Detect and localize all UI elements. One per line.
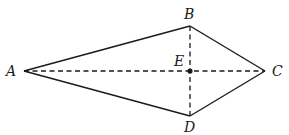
segment-bc bbox=[190, 26, 265, 71]
label-e: E bbox=[173, 53, 184, 69]
point-e-dot bbox=[187, 68, 192, 73]
diagonals bbox=[24, 26, 265, 116]
segment-da bbox=[24, 71, 190, 116]
segment-ab bbox=[24, 26, 190, 71]
label-d: D bbox=[183, 119, 195, 135]
label-a: A bbox=[4, 63, 16, 79]
label-c: C bbox=[272, 63, 283, 79]
label-b: B bbox=[183, 6, 194, 22]
segment-cd bbox=[190, 71, 265, 116]
kite-diagram: A B C D E bbox=[0, 0, 289, 135]
